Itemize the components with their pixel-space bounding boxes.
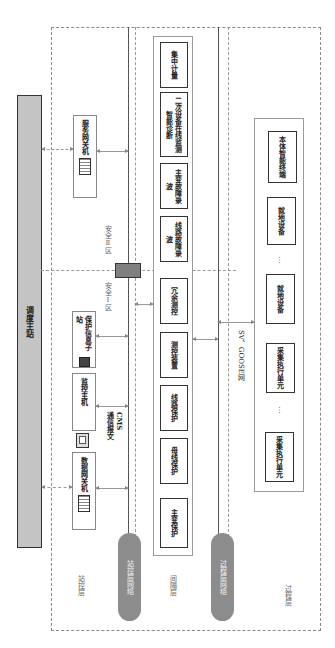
process-network-pill: 过程层网络 (211, 533, 234, 621)
link-main-service (42, 149, 73, 150)
link-service-network (97, 151, 128, 152)
main-station-label: 调度主站 (24, 306, 35, 338)
server-rack-icon (78, 495, 90, 512)
bay-device-line-protection: 线路保护 (160, 385, 188, 431)
monitor-host-label: 监控主机 (80, 378, 89, 406)
bay-layer-label: 间隔层 (168, 575, 178, 596)
link-bay-process (193, 339, 218, 340)
link-protection-network (96, 336, 128, 337)
process-layer-label: 过程层 (283, 585, 293, 606)
device-icon (79, 357, 90, 367)
link-monitor-network (96, 406, 128, 407)
process-device-acquisition-2: 采集执行单元 (266, 343, 295, 393)
link-process-network-devices (218, 322, 254, 323)
bay-device-central-metering: 集中计量 (160, 42, 188, 88)
cms-note: CMS 通信报文 (106, 412, 124, 440)
main-station-bar: 调度主站 (17, 95, 42, 548)
monitor-host: 监控主机 (72, 373, 96, 431)
process-network-dash (228, 27, 229, 537)
process-ellipsis-2: … (277, 406, 286, 414)
zone1-label: 安全Ⅰ区 (103, 282, 113, 311)
station-network-pill: 站控层网络 (118, 533, 141, 621)
process-device-local-2: 就地设备 (267, 197, 296, 245)
link-station-bay (135, 304, 153, 305)
sv-goose-label: SV、GOOSE网 (236, 330, 245, 381)
service-gateway-label: 服务网关机 (81, 120, 90, 155)
process-device-acquisition-1: 采集执行单元 (265, 432, 294, 482)
bay-device-transformer-fault-recorder: 主变故障录波 (160, 163, 188, 209)
bay-device-redundant-measure-control: 冗余测控 (160, 278, 188, 324)
service-gateway: 服务网关机 (73, 115, 97, 198)
protection-substation-label: 保护信息子站 (75, 316, 93, 354)
station-network-dash (135, 27, 136, 537)
bay-device-busbar-protection: 母线保护 (160, 438, 188, 484)
process-device-body-terminal: 本体智能终端 (268, 131, 297, 183)
process-device-local-1: 就地设备 (266, 274, 295, 324)
data-gateway-label: 数据网关机 (80, 457, 89, 492)
bay-device-line-fault-recorder: 线路故障录波 (160, 216, 188, 262)
bay-device-transformer-protection: 主变保护 (160, 498, 188, 548)
server-rack-icon (79, 158, 91, 175)
firewall-icon (115, 263, 141, 278)
link-main-data (42, 487, 72, 488)
station-layer-label: 站控层 (76, 575, 86, 596)
station-network-line (128, 27, 129, 537)
process-network-line (218, 27, 219, 537)
zone2-label: 安全Ⅱ区 (103, 225, 113, 254)
protection-info-substation: 保护信息子站 (72, 311, 96, 368)
bay-device-secondary-monitoring: 二次设备在线监测智能诊断 (160, 92, 188, 157)
link-data-network (96, 488, 128, 489)
monitor-icon (76, 433, 89, 448)
bay-device-measure-control: 测控装置 (160, 332, 188, 378)
data-gateway: 数据网关机 (72, 452, 96, 530)
process-ellipsis-1: … (277, 256, 286, 264)
